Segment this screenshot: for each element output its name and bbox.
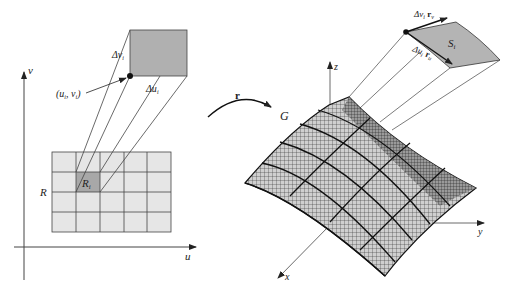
mapping-r: r — [208, 89, 271, 117]
point-pointer — [86, 78, 126, 93]
tangent-v-label: Δvi rv — [413, 9, 434, 20]
point-ui-vi — [127, 73, 133, 79]
x-axis-label: x — [284, 271, 290, 282]
region-grid — [52, 152, 171, 232]
u-axis-label: u — [185, 250, 191, 262]
mapping-arrow — [208, 99, 271, 117]
surface-area-diagram: v u R Ri (ui, vi) Δvi Δui r — [0, 0, 514, 293]
v-axis-label: v — [28, 64, 33, 76]
region-label: R — [39, 186, 47, 198]
uv-plane: v u R Ri (ui, vi) Δvi Δui — [14, 30, 196, 280]
enlarged-cell — [130, 30, 187, 76]
point-label: (ui, vi) — [56, 88, 81, 100]
x-axis — [278, 223, 332, 278]
diagram-svg: v u R Ri (ui, vi) Δvi Δui r — [0, 0, 514, 293]
xyz-space: z y x G Si Δvi rv Δui ru — [245, 9, 500, 282]
surface-g — [245, 97, 476, 276]
delta-u-label: Δui — [145, 83, 159, 95]
y-axis-label: y — [477, 226, 483, 237]
mapping-label: r — [235, 89, 240, 101]
z-axis-label: z — [333, 61, 338, 72]
surface-label: G — [280, 109, 289, 123]
